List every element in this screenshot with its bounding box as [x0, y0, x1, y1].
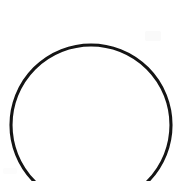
- drawing-canvas: [0, 0, 181, 181]
- circle-figure: [0, 0, 181, 181]
- canvas-background: [0, 0, 181, 181]
